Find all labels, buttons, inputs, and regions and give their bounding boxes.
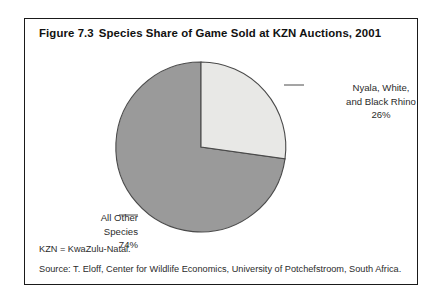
callout-right-value: 26%: [325, 108, 432, 122]
callout-right-line2: and Black Rhino: [325, 95, 432, 109]
callout-right-line1: Nyala, White,: [325, 81, 432, 95]
callout-left-line2: Species: [45, 225, 138, 239]
callout-label-right: Nyala, White, and Black Rhino 26%: [325, 81, 432, 122]
note-source: Source: T. Eloff, Center for Wildlife Ec…: [39, 264, 401, 274]
figure-frame: Figure 7.3Species Share of Game Sold at …: [24, 18, 418, 285]
callout-left-line1: All Other: [45, 211, 138, 225]
note-abbreviation: KZN = KwaZulu-Natal.: [39, 244, 131, 254]
pie-slice-nyala-white-black-rhino: [201, 62, 286, 159]
